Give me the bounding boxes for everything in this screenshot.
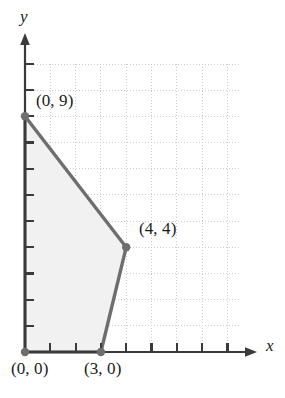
vertex-point-4-4 xyxy=(122,243,130,251)
x-axis-label: x xyxy=(266,337,274,354)
graph-figure: y x (0, 9) (4, 4) (0, 0) (3, 0) xyxy=(0,0,285,398)
vertex-point-0-0 xyxy=(21,348,29,356)
coordinate-plot xyxy=(0,0,285,398)
vertex-point-3-0 xyxy=(97,348,105,356)
point-label-origin: (0, 0) xyxy=(11,360,48,377)
point-label-x-intercept: (3, 0) xyxy=(84,360,121,377)
point-label-corner: (4, 4) xyxy=(139,220,176,237)
x-axis-arrow xyxy=(245,347,257,357)
y-axis-label: y xyxy=(20,8,28,25)
y-axis-arrow xyxy=(20,33,30,45)
point-label-y-intercept: (0, 9) xyxy=(36,92,73,109)
vertex-point-0-9 xyxy=(21,112,29,120)
